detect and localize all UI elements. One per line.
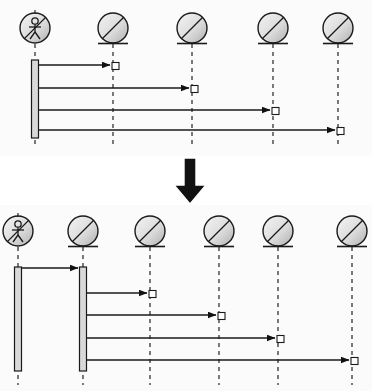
- sequence-diagram-after: [0, 205, 372, 391]
- object-circle-icon[interactable]: [258, 13, 288, 44]
- activation-bar-intermediary[interactable]: [80, 267, 87, 371]
- message-arrow[interactable]: [87, 291, 156, 298]
- message-target-box: [112, 63, 119, 70]
- actor-stick-figure-icon[interactable]: [20, 10, 50, 43]
- actor-stick-figure-icon[interactable]: [3, 213, 33, 246]
- message-target-box: [191, 86, 198, 93]
- activation-bar-actor[interactable]: [15, 267, 22, 371]
- message-target-box: [272, 108, 279, 115]
- message-arrow[interactable]: [39, 86, 198, 93]
- object-circle-icon[interactable]: [204, 216, 234, 247]
- activation-bar-actor[interactable]: [32, 60, 39, 138]
- object-circle-icon[interactable]: [68, 216, 98, 247]
- message-arrow[interactable]: [87, 336, 284, 343]
- down-arrow-icon: [170, 158, 210, 204]
- message-target-box: [351, 358, 358, 365]
- object-circle-icon[interactable]: [177, 13, 207, 44]
- message-target-box: [277, 336, 284, 343]
- message-arrow[interactable]: [39, 108, 279, 115]
- message-target-box: [218, 313, 225, 320]
- message-arrow[interactable]: [87, 313, 225, 320]
- figure-canvas: [0, 0, 372, 391]
- object-circle-icon[interactable]: [135, 216, 165, 247]
- object-circle-icon[interactable]: [323, 13, 353, 44]
- before-lifelines: [35, 44, 338, 146]
- after-diagram-svg: [0, 205, 372, 391]
- object-circle-icon[interactable]: [98, 13, 128, 44]
- sequence-diagram-before: [0, 0, 372, 156]
- message-target-box: [337, 128, 344, 135]
- before-diagram-svg: [0, 0, 372, 156]
- message-target-box: [149, 291, 156, 298]
- message-arrow[interactable]: [87, 358, 358, 365]
- object-circle-icon[interactable]: [263, 216, 293, 247]
- object-circle-icon[interactable]: [337, 216, 367, 247]
- message-arrow[interactable]: [39, 63, 119, 70]
